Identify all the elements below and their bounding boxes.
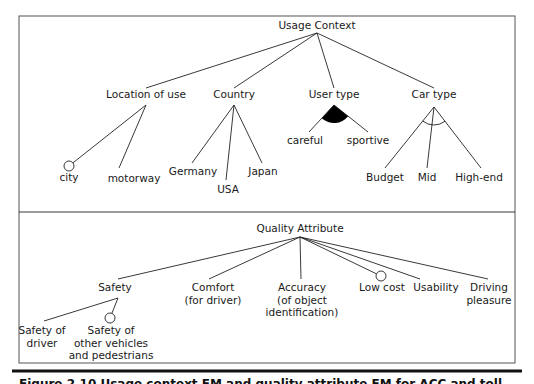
root-to-attribute-line bbox=[300, 237, 420, 279]
root-to-group-line bbox=[146, 33, 317, 88]
feature-country: Country bbox=[213, 88, 255, 100]
figure-caption: Figure 2.10 Usage context FM and quality… bbox=[19, 377, 516, 384]
root-to-group-line bbox=[317, 33, 434, 88]
group-to-child-line bbox=[192, 105, 234, 163]
feature-model-diagram: Usage ContextLocation of usecitymotorway… bbox=[0, 0, 534, 384]
caption-rule bbox=[12, 370, 522, 373]
optional-feature-circle-icon bbox=[376, 271, 386, 281]
feature-high-end: High-end bbox=[455, 171, 503, 183]
group-to-child-line bbox=[385, 107, 434, 168]
feature-label-line: Safety bbox=[98, 281, 132, 293]
feature-label-line: (for driver) bbox=[185, 294, 242, 306]
feature-motorway: motorway bbox=[108, 172, 161, 184]
optional-feature-circle-icon bbox=[64, 161, 74, 171]
feature-label-line: other vehicles bbox=[74, 337, 148, 349]
group-to-child-line bbox=[119, 105, 146, 168]
feature-label-line: driver bbox=[27, 337, 59, 349]
group-to-child-line bbox=[434, 107, 481, 168]
or-group-filled-arc-icon bbox=[322, 105, 348, 123]
group-to-child-line bbox=[234, 105, 262, 163]
root-to-attribute-line bbox=[300, 237, 376, 274]
feature-car-type: Car type bbox=[412, 88, 457, 100]
feature-budget: Budget bbox=[366, 171, 404, 183]
group-to-child-line bbox=[427, 107, 434, 168]
feature-label-line: Low cost bbox=[359, 281, 405, 293]
feature-japan: Japan bbox=[247, 165, 277, 177]
group-to-child-line bbox=[73, 105, 146, 163]
optional-feature-circle-icon bbox=[105, 313, 115, 323]
root-to-attribute-line bbox=[118, 237, 300, 279]
feature-label-line: Driving bbox=[470, 281, 508, 293]
feature-label-line: and pedestrians bbox=[69, 349, 154, 361]
feature-user-type: User type bbox=[309, 88, 360, 100]
root-to-group-line bbox=[317, 33, 334, 88]
root-to-attribute-line bbox=[300, 237, 488, 279]
feature-label-line: Safety of bbox=[18, 324, 65, 336]
root-to-attribute-line bbox=[209, 237, 300, 279]
feature-label-line: (of object bbox=[277, 294, 327, 306]
group-to-child-line bbox=[226, 105, 234, 180]
feature-label-line: identification) bbox=[266, 306, 339, 318]
root-to-attribute-line bbox=[300, 237, 301, 279]
feature-root-usage-context: Usage Context bbox=[278, 19, 355, 31]
feature-usa: USA bbox=[217, 183, 240, 195]
feature-label-line: Accuracy bbox=[278, 281, 326, 293]
feature-city: city bbox=[59, 171, 78, 183]
feature-model-figure: Usage ContextLocation of usecitymotorway… bbox=[0, 0, 534, 384]
feature-location-of-use: Location of use bbox=[106, 88, 186, 100]
feature-sportive: sportive bbox=[347, 134, 390, 146]
feature-mid: Mid bbox=[418, 171, 437, 183]
feature-root-quality-attribute: Quality Attribute bbox=[256, 222, 343, 234]
feature-germany: Germany bbox=[169, 165, 217, 177]
feature-careful: careful bbox=[287, 134, 323, 146]
attribute-to-subattribute-line bbox=[112, 298, 118, 313]
feature-label-line: Safety of bbox=[87, 324, 134, 336]
feature-label-line: pleasure bbox=[466, 294, 511, 306]
feature-label-line: Usability bbox=[413, 281, 458, 293]
root-to-group-line bbox=[234, 33, 317, 88]
alternative-group-arc-icon bbox=[423, 121, 445, 125]
feature-label-line: Comfort bbox=[192, 281, 235, 293]
